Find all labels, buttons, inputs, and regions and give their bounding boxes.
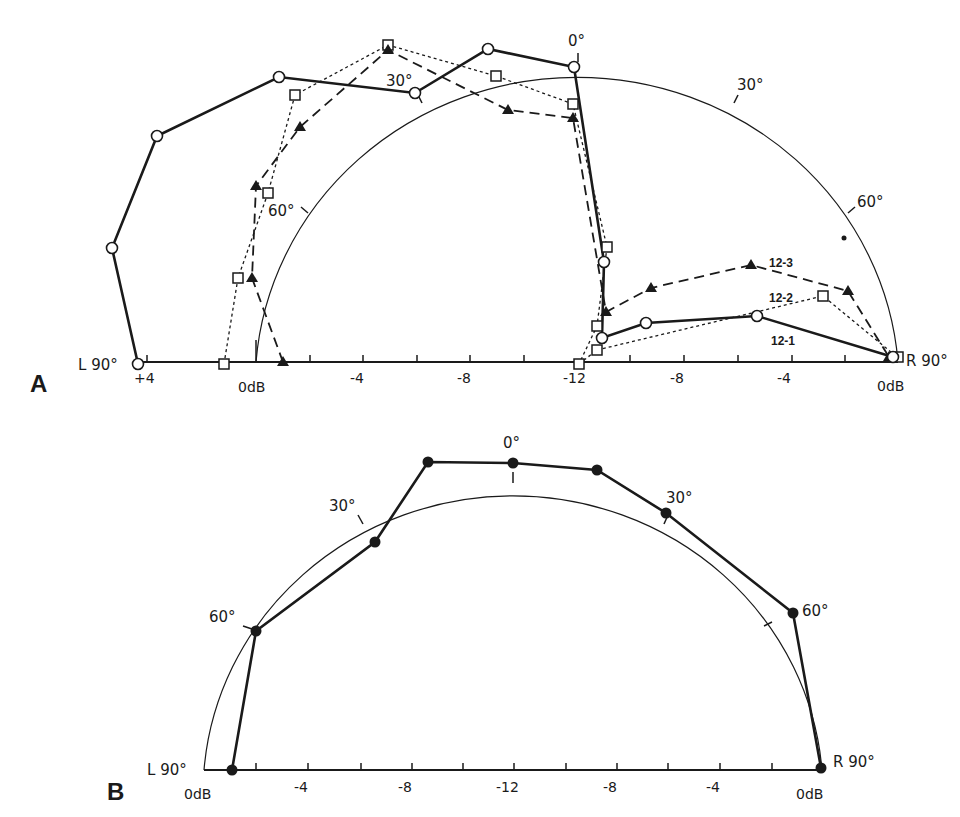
series-tags-a: 12-3 12-2 12-1 — [769, 256, 795, 348]
axis-tick-labels-a: +4 0dB -4 -8 -12 -8 -4 0dB — [134, 370, 904, 395]
angle-30-right-label-a: 30° — [737, 76, 764, 94]
angle-30-right-label-b: 30° — [666, 489, 693, 507]
reference-arc-b — [204, 496, 822, 770]
svg-text:-12: -12 — [496, 779, 519, 795]
svg-text:-4: -4 — [350, 370, 364, 386]
angle-60-right-label-b: 60° — [802, 602, 829, 620]
series-12-1-markers — [107, 44, 899, 370]
series-12-3-markers — [246, 44, 895, 366]
series-12-1-line — [112, 49, 893, 364]
svg-text:+4: +4 — [134, 370, 155, 386]
svg-text:-8: -8 — [603, 779, 617, 795]
svg-text:-12: -12 — [563, 370, 586, 386]
svg-text:-8: -8 — [398, 779, 412, 795]
svg-text:-8: -8 — [670, 370, 684, 386]
panel-b: B L 90° R 90° 0° 30° 30° 60° 60° 0dB -4 … — [107, 434, 875, 805]
svg-text:0dB: 0dB — [238, 379, 265, 395]
series-b-markers — [227, 457, 827, 776]
svg-text:0dB: 0dB — [184, 786, 211, 802]
panel-label-a: A — [30, 370, 47, 397]
series-12-3-line — [252, 50, 889, 362]
l90-label-b: L 90° — [147, 761, 187, 779]
svg-text:-8: -8 — [457, 370, 471, 386]
series-b-line — [232, 462, 821, 770]
angle-60-left-label-a: 60° — [268, 202, 295, 220]
angle-60-left-label-b: 60° — [209, 608, 236, 626]
series-12-2-markers — [219, 40, 903, 369]
series-tag-12-2: 12-2 — [769, 291, 793, 305]
stray-mark — [842, 236, 847, 241]
svg-text:0dB: 0dB — [796, 786, 823, 802]
r90-label-a: R 90° — [906, 352, 948, 370]
axis-tick-labels-b: 0dB -4 -8 -12 -8 -4 0dB — [184, 779, 823, 802]
svg-text:-4: -4 — [777, 370, 791, 386]
l90-label-a: L 90° — [78, 356, 118, 374]
series-tag-12-3: 12-3 — [769, 256, 793, 270]
polar-plots: A L 90° R 90° 0° 30° 30° 60° 60° +4 0dB … — [0, 0, 960, 817]
r90-label-b: R 90° — [833, 753, 875, 771]
series-tag-12-1: 12-1 — [771, 334, 795, 348]
panel-label-b: B — [107, 778, 124, 805]
angle-0-label-b: 0° — [503, 434, 520, 452]
svg-text:-4: -4 — [706, 779, 720, 795]
axis-ticks-b — [243, 472, 772, 770]
angle-0-label-a: 0° — [568, 32, 585, 50]
angle-60-right-label-a: 60° — [857, 193, 884, 211]
svg-text:0dB: 0dB — [877, 378, 904, 394]
angle-30-left-label-a: 30° — [386, 72, 413, 90]
panel-a: A L 90° R 90° 0° 30° 30° 60° 60° +4 0dB … — [30, 32, 948, 397]
angle-30-left-label-b: 30° — [329, 497, 356, 515]
svg-text:-4: -4 — [294, 779, 308, 795]
